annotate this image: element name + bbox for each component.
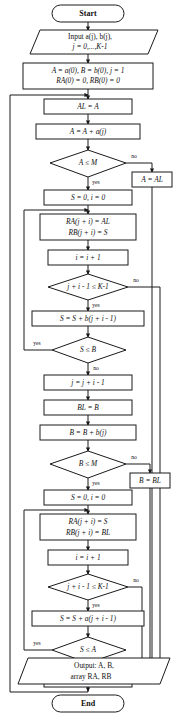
node-output-line1: Output: A, B, xyxy=(74,661,114,670)
node-start-label: Start xyxy=(79,9,97,18)
node-i-inc-1: i = i + 1 xyxy=(48,250,128,265)
edge-label-bound-1-yes: yes xyxy=(92,302,99,308)
node-store-1-line1: RA(j + i) = AL xyxy=(65,217,110,226)
node-j-update-1: j = j + i - 1 xyxy=(44,375,132,390)
edge-label-bound-1-no: no xyxy=(133,277,139,283)
node-a-restore: A = AL xyxy=(132,172,172,187)
node-store-2-line1: RA(j + i) = S xyxy=(67,517,107,526)
edge-label-s-le-b-no: no xyxy=(93,365,99,371)
node-b-accum: B = B + b(j) xyxy=(40,425,136,440)
edge-label-b-le-m-no: no xyxy=(131,454,137,460)
node-store-2: RA(j + i) = S RB(j + i) = BL xyxy=(40,514,136,540)
node-start: Start xyxy=(52,5,124,22)
node-b-accum-label: B = B + b(j) xyxy=(69,428,107,437)
node-bound-2: j + i - 1 ≤ K-1 no yes xyxy=(48,574,139,608)
node-end: End xyxy=(52,695,124,712)
node-a-le-m-label: A ≤ M xyxy=(78,158,98,167)
node-s-accum-b-label: S = S + b(j + i - 1) xyxy=(60,314,117,323)
node-s-i-zero-2: S = 0, i = 0 xyxy=(44,490,132,505)
node-i-inc-1-label: i = i + 1 xyxy=(75,253,100,262)
node-output: Output: A, B, array RA, RB xyxy=(18,658,170,684)
node-s-le-b: S ≤ B yes no xyxy=(33,337,126,371)
node-init: A = a(0), B = b(0), j = 1 RA(0) = 0, RB(… xyxy=(23,63,153,89)
node-input-line1: Input a(j), b(j), xyxy=(68,32,112,41)
node-store-1: RA(j + i) = AL RB(j + i) = S xyxy=(40,214,136,240)
node-s-i-zero-2-label: S = 0, i = 0 xyxy=(71,493,106,502)
node-input-line2: j = 0,...,K-1 xyxy=(72,42,108,51)
edge-label-s-le-b-yes: yes xyxy=(33,340,40,346)
node-init-line1: A = a(0), B = b(0), j = 1 xyxy=(51,66,125,75)
edge-label-a-le-m-yes: yes xyxy=(92,179,99,185)
node-a-accum: A = A + a(j) xyxy=(36,124,140,139)
node-output-line2: array RA, RB xyxy=(71,672,112,681)
node-bl-assign: BL = B xyxy=(44,400,132,415)
node-s-i-zero-1: S = 0, i = 0 xyxy=(44,190,132,205)
node-j-update-1-label: j = j + i - 1 xyxy=(70,378,104,387)
node-s-le-a-label: S ≤ A xyxy=(80,645,96,654)
node-bound-1-label: j + i - 1 ≤ K-1 xyxy=(66,282,108,291)
node-al-assign: AL = A xyxy=(44,99,132,114)
node-s-accum-a: S = S + a(j + i - 1) xyxy=(32,611,144,626)
flowchart-canvas: Start Input a(j), b(j), j = 0,...,K-1 A … xyxy=(0,0,177,719)
node-b-le-m-label: B ≤ M xyxy=(79,459,98,468)
node-i-inc-2-label: i = i + 1 xyxy=(75,553,100,562)
node-s-i-zero-1-label: S = 0, i = 0 xyxy=(71,193,106,202)
edge-label-b-le-m-yes: yes xyxy=(92,480,99,486)
node-a-le-m: A ≤ M no yes xyxy=(50,150,137,185)
node-b-le-m: B ≤ M no yes xyxy=(50,451,137,486)
node-s-le-b-label: S ≤ B xyxy=(80,345,96,354)
node-input: Input a(j), b(j), j = 0,...,K-1 xyxy=(30,30,158,54)
node-store-1-line2: RB(j + i) = S xyxy=(67,228,107,237)
node-b-restore: B = BL xyxy=(130,473,170,488)
node-a-accum-label: A = A + a(j) xyxy=(69,127,107,136)
edge-label-a-le-m-no: no xyxy=(131,153,137,159)
node-store-2-line2: RB(j + i) = BL xyxy=(65,528,110,537)
node-bound-1: j + i - 1 ≤ K-1 no yes xyxy=(48,274,139,308)
node-bl-assign-label: BL = B xyxy=(77,403,99,412)
node-a-restore-label: A = AL xyxy=(140,175,163,184)
edge-label-bound-2-yes: yes xyxy=(92,602,99,608)
edge-label-s-le-a-yes: yes xyxy=(33,640,40,646)
node-end-label: End xyxy=(81,699,96,708)
node-s-accum-b: S = S + b(j + i - 1) xyxy=(32,311,144,326)
node-b-restore-label: B = BL xyxy=(139,476,161,485)
node-s-accum-a-label: S = S + a(j + i - 1) xyxy=(60,614,117,623)
node-bound-2-label: j + i - 1 ≤ K-1 xyxy=(66,582,108,591)
node-i-inc-2: i = i + 1 xyxy=(48,550,128,565)
edge-label-bound-2-no: no xyxy=(133,577,139,583)
node-init-line2: RA(0) = 0, RB(0) = 0 xyxy=(55,76,120,85)
node-al-assign-label: AL = A xyxy=(76,102,99,111)
